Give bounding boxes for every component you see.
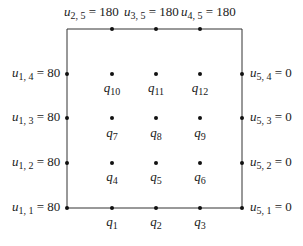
label-q8: q8 [141, 126, 171, 140]
node-u-4-5 [198, 27, 202, 31]
node-q3 [198, 206, 202, 210]
node-u-1-1 [65, 206, 69, 210]
node-u-1-4 [65, 72, 69, 76]
node-u-5-3 [240, 116, 244, 120]
label-q10: q10 [97, 81, 127, 95]
node-q12 [198, 72, 202, 76]
node-q9 [198, 116, 202, 120]
label-q11: q11 [141, 81, 171, 95]
label-u-1-4: u1, 4 = 80 [12, 66, 60, 80]
node-q2 [154, 206, 158, 210]
label-q2: q2 [141, 215, 171, 229]
label-u-2-5: u2, 5 = 180 [64, 5, 119, 19]
label-q7: q7 [97, 126, 127, 140]
label-q4: q4 [97, 170, 127, 184]
label-u-1-1: u1, 1 = 80 [12, 200, 60, 214]
label-q1: q1 [97, 215, 127, 229]
finite-difference-grid-diagram: u2, 5 = 180 u3, 5 = 180 u4, 5 = 180 u1, … [0, 0, 303, 246]
label-u-4-5: u4, 5 = 180 [181, 5, 236, 19]
label-q5: q5 [141, 170, 171, 184]
node-q6 [198, 161, 202, 165]
label-u-3-5: u3, 5 = 180 [124, 5, 179, 19]
node-u-5-1 [240, 206, 244, 210]
node-q8 [154, 116, 158, 120]
label-u-5-2: u5, 2 = 0 [250, 155, 292, 169]
label-u-1-3: u1, 3 = 80 [12, 110, 60, 124]
label-q6: q6 [185, 170, 215, 184]
node-u-1-3 [65, 116, 69, 120]
node-u-5-4 [240, 72, 244, 76]
node-q7 [110, 116, 114, 120]
label-q3: q3 [185, 215, 215, 229]
label-u-5-3: u5, 3 = 0 [250, 110, 292, 124]
label-u-1-2: u1, 2 = 80 [12, 155, 60, 169]
node-u-1-2 [65, 161, 69, 165]
node-q10 [110, 72, 114, 76]
node-u-5-2 [240, 161, 244, 165]
label-u-5-4: u5, 4 = 0 [250, 66, 292, 80]
label-q9: q9 [185, 126, 215, 140]
node-q5 [154, 161, 158, 165]
node-q1 [110, 206, 114, 210]
node-u-3-5 [154, 27, 158, 31]
label-q12: q12 [185, 81, 215, 95]
node-q4 [110, 161, 114, 165]
label-u-5-1: u5, 1 = 0 [250, 200, 292, 214]
node-u-2-5 [110, 27, 114, 31]
node-q11 [154, 72, 158, 76]
